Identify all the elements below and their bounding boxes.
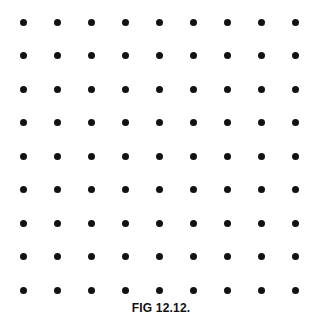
- lattice-dot: [156, 186, 163, 193]
- lattice-dot: [292, 119, 299, 126]
- lattice-dot: [20, 52, 27, 59]
- lattice-dot: [224, 220, 231, 227]
- lattice-dot: [122, 287, 129, 294]
- lattice-dot: [156, 153, 163, 160]
- lattice-dot: [88, 186, 95, 193]
- lattice-dot: [190, 19, 197, 26]
- figure-container: FIG 12.12.: [0, 0, 322, 332]
- lattice-dot: [224, 86, 231, 93]
- lattice-dot: [224, 19, 231, 26]
- lattice-dot: [190, 153, 197, 160]
- lattice-dot: [88, 287, 95, 294]
- lattice-dot: [88, 86, 95, 93]
- lattice-dot: [20, 220, 27, 227]
- lattice-dot: [156, 287, 163, 294]
- lattice-dot: [122, 153, 129, 160]
- lattice-dot: [292, 287, 299, 294]
- lattice-dot: [156, 119, 163, 126]
- lattice-dot: [88, 253, 95, 260]
- lattice-dot: [224, 186, 231, 193]
- lattice-dot: [88, 220, 95, 227]
- lattice-dot: [292, 153, 299, 160]
- lattice-dot: [156, 52, 163, 59]
- lattice-dot: [292, 253, 299, 260]
- lattice-dot: [122, 253, 129, 260]
- lattice-dot: [54, 86, 61, 93]
- lattice-dot: [54, 287, 61, 294]
- lattice-dot: [258, 86, 265, 93]
- lattice-dot: [20, 186, 27, 193]
- lattice-dot: [122, 119, 129, 126]
- lattice-dot: [156, 253, 163, 260]
- lattice-dot: [258, 52, 265, 59]
- lattice-dot: [20, 86, 27, 93]
- lattice-dot: [54, 253, 61, 260]
- lattice-dot: [20, 19, 27, 26]
- lattice-dot: [292, 19, 299, 26]
- lattice-dot: [156, 220, 163, 227]
- lattice-dot: [54, 220, 61, 227]
- lattice-dot: [20, 119, 27, 126]
- lattice-dot: [88, 153, 95, 160]
- lattice-dot: [190, 52, 197, 59]
- lattice-dot: [224, 287, 231, 294]
- lattice-dot: [122, 220, 129, 227]
- lattice-dot: [122, 19, 129, 26]
- dot-lattice-plot: [0, 0, 322, 300]
- lattice-dot: [20, 153, 27, 160]
- lattice-dot: [54, 52, 61, 59]
- lattice-dot: [292, 186, 299, 193]
- lattice-dot: [20, 287, 27, 294]
- lattice-dot: [224, 52, 231, 59]
- lattice-dot: [258, 220, 265, 227]
- lattice-dot: [258, 287, 265, 294]
- figure-caption: FIG 12.12.: [0, 301, 322, 315]
- lattice-dot: [54, 186, 61, 193]
- lattice-dot: [258, 119, 265, 126]
- lattice-dot: [20, 253, 27, 260]
- lattice-dot: [88, 52, 95, 59]
- lattice-dot: [258, 186, 265, 193]
- lattice-dot: [224, 253, 231, 260]
- lattice-dot: [122, 86, 129, 93]
- lattice-dot: [224, 119, 231, 126]
- lattice-dot: [190, 186, 197, 193]
- lattice-dot: [292, 86, 299, 93]
- lattice-dot: [54, 19, 61, 26]
- lattice-dot: [190, 86, 197, 93]
- lattice-dot: [122, 186, 129, 193]
- lattice-dot: [258, 153, 265, 160]
- lattice-dot: [156, 86, 163, 93]
- lattice-dot: [122, 52, 129, 59]
- lattice-dot: [190, 220, 197, 227]
- lattice-dot: [88, 119, 95, 126]
- lattice-dot: [224, 153, 231, 160]
- lattice-dot: [88, 19, 95, 26]
- lattice-dot: [190, 287, 197, 294]
- lattice-dot: [190, 253, 197, 260]
- lattice-dot: [156, 19, 163, 26]
- lattice-dot: [292, 220, 299, 227]
- lattice-dot: [258, 253, 265, 260]
- lattice-dot: [258, 19, 265, 26]
- lattice-dot: [54, 119, 61, 126]
- lattice-dot: [190, 119, 197, 126]
- lattice-dot: [292, 52, 299, 59]
- lattice-dot: [54, 153, 61, 160]
